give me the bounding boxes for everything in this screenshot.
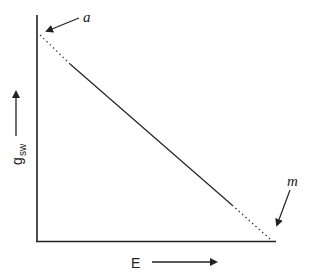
svg-text:sw: sw xyxy=(17,143,28,156)
diagram-canvas: a m g sw E xyxy=(0,0,311,277)
line-solid xyxy=(70,64,232,205)
line-dotted-end xyxy=(232,205,271,240)
line-dotted-start xyxy=(40,35,70,64)
arrow-a-icon xyxy=(47,18,79,31)
svg-text:g: g xyxy=(9,157,25,165)
x-axis-label: E xyxy=(131,255,140,271)
arrow-m-icon xyxy=(277,190,290,225)
y-axis-label: g sw xyxy=(9,143,28,165)
label-a: a xyxy=(83,9,91,25)
label-m: m xyxy=(287,173,298,189)
